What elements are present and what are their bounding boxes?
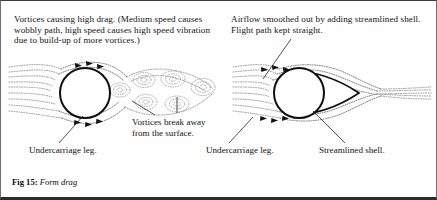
streamlined-shell-shape xyxy=(291,71,359,115)
flow-direction-arrows-left xyxy=(74,61,104,127)
undercarriage-leg-circle-left xyxy=(60,68,110,118)
left-diagram-streamlines xyxy=(9,62,213,123)
undercarriage-leg-circle-right xyxy=(274,68,324,118)
figure-panel: Vortices causing high drag. (Medium spee… xyxy=(0,0,437,200)
label-streamlined-shell: Streamlined shell. xyxy=(319,145,385,156)
vortex-spirals xyxy=(110,71,215,112)
right-leader-lines xyxy=(229,39,345,143)
label-undercarriage-leg-right: Undercarriage leg. xyxy=(206,145,274,156)
left-panel-caption: Vortices causing high drag. (Medium spee… xyxy=(14,14,219,46)
flow-direction-arrows-right xyxy=(260,65,290,123)
figure-caption: Fig 15: Form drag xyxy=(12,177,77,187)
right-diagram-streamlines xyxy=(233,65,431,121)
figure-number: Fig 15: xyxy=(12,177,38,187)
figure-title: Form drag xyxy=(40,177,77,187)
right-panel-caption: Airflow smoothed out by adding streamlin… xyxy=(231,14,431,35)
label-vortices-break-away: Vortices break away from the surface. xyxy=(132,117,224,138)
label-undercarriage-leg-left: Undercarriage leg. xyxy=(29,145,97,156)
